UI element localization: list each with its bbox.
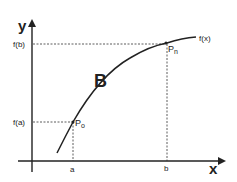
point-pn-subscript: n: [174, 48, 178, 55]
point-p0-label: Po: [75, 118, 85, 129]
tick-label-b: b: [164, 164, 169, 173]
x-axis-label: x: [209, 160, 218, 177]
tick-label-fb: f(b): [13, 40, 25, 49]
y-axis-label: y: [18, 17, 27, 34]
function-label: f(x): [199, 34, 211, 43]
point-pn-label: Pn: [168, 44, 178, 55]
tick-label-a: a: [70, 165, 75, 174]
tick-label-fa: f(a): [13, 118, 25, 127]
point-p0-subscript: o: [81, 122, 85, 129]
curve-name-label: B: [94, 71, 107, 91]
diagram-canvas: y x f(b) f(a) a b B f(x) Po Pn: [0, 0, 237, 182]
